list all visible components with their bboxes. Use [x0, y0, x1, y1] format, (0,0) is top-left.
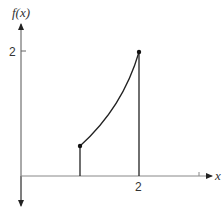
- x-axis-label: x: [214, 168, 221, 183]
- y-tick-label: 2: [9, 45, 16, 59]
- function-curve: [80, 52, 139, 146]
- x-tick-label: 2: [135, 180, 142, 194]
- y-axis-label: f(x): [12, 5, 30, 20]
- endpoint-left: [78, 144, 82, 148]
- chart: f(x) 2 2 x: [0, 0, 224, 212]
- endpoint-right: [137, 50, 141, 54]
